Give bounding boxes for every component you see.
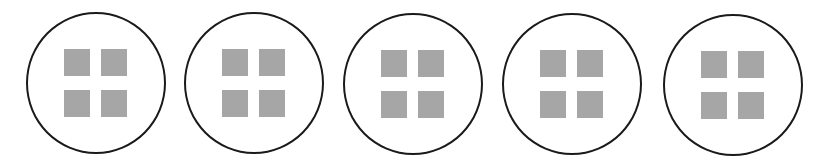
square-top-right — [101, 49, 127, 76]
square-top-left — [540, 50, 566, 77]
square-bottom-right — [577, 91, 603, 118]
square-top-right — [738, 51, 764, 78]
square-bottom-right — [259, 90, 285, 117]
circle-4 — [502, 13, 642, 155]
square-bottom-right — [418, 91, 444, 118]
square-bottom-left — [540, 91, 566, 118]
square-top-left — [701, 51, 727, 78]
square-top-left — [64, 49, 90, 76]
circle-1 — [26, 12, 166, 154]
circle-row-diagram — [0, 0, 824, 163]
circle-3 — [343, 13, 483, 155]
square-top-right — [259, 49, 285, 76]
square-bottom-left — [64, 90, 90, 117]
square-top-left — [381, 50, 407, 77]
square-bottom-left — [222, 90, 248, 117]
square-bottom-left — [381, 91, 407, 118]
square-top-right — [577, 50, 603, 77]
circle-2 — [184, 12, 324, 154]
square-bottom-right — [101, 90, 127, 117]
square-bottom-left — [701, 92, 727, 119]
square-top-left — [222, 49, 248, 76]
square-top-right — [418, 50, 444, 77]
square-bottom-right — [738, 92, 764, 119]
circle-5 — [663, 14, 803, 156]
